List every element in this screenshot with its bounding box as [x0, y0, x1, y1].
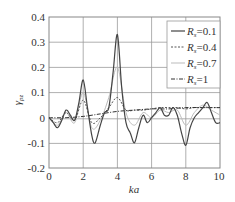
chart: 0.4 0.3 0.2 0.1 0 -0.1 -0.2 0 2 4 6 8 10…: [0, 0, 235, 202]
legend: Rs=0.1 Rs=0.4 Rs=0.7 Rs=1: [167, 21, 220, 88]
y-tick: -0.1: [28, 137, 45, 149]
x-tick: 4: [115, 170, 121, 182]
x-axis-label: ka: [129, 183, 140, 195]
x-tick-labels: 0 2 4 6 8 10: [46, 170, 225, 182]
x-tick: 10: [214, 170, 226, 182]
x-tick: 2: [80, 170, 86, 182]
x-tick: 8: [183, 170, 189, 182]
y-tick: 0.3: [31, 36, 45, 48]
y-tick: 0.2: [31, 61, 45, 73]
y-tick: 0: [40, 112, 46, 124]
legend-item-rs-0.1: Rs=0.1: [186, 25, 216, 39]
x-tick: 6: [149, 170, 155, 182]
legend-item-rs-0.4: Rs=0.4: [186, 41, 217, 55]
legend-item-rs-0.7: Rs=0.7: [186, 57, 217, 71]
y-tick: 0.1: [31, 86, 45, 98]
legend-item-rs-1: Rs=1: [186, 73, 208, 87]
y-tick: -0.2: [28, 162, 45, 174]
svg-text:γpz: γpz: [11, 94, 25, 105]
y-axis-label: γpz: [11, 94, 25, 105]
y-tick-labels: 0.4 0.3 0.2 0.1 0 -0.1 -0.2: [28, 11, 46, 174]
x-tick: 0: [46, 170, 52, 182]
y-tick: 0.4: [31, 11, 45, 23]
